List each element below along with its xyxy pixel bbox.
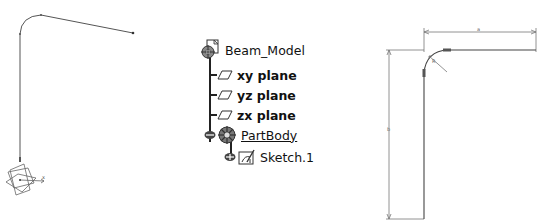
collapse-toggle-icon[interactable]	[204, 130, 216, 140]
plane-icon	[217, 90, 233, 100]
tree-item-label: zx plane	[237, 108, 296, 123]
sketch-icon	[238, 149, 256, 165]
2d-sketch-view[interactable]: a b R	[370, 0, 546, 223]
tree-item-sketch-1[interactable]: Sketch.1	[224, 147, 314, 167]
3d-view[interactable]: x	[0, 0, 182, 223]
svg-text:R: R	[432, 58, 436, 64]
tree-item-zx-plane[interactable]: zx plane	[217, 105, 296, 125]
svg-text:a: a	[477, 26, 480, 32]
expand-toggle-icon[interactable]	[224, 152, 236, 162]
tree-item-partbody[interactable]: PartBody	[204, 125, 297, 145]
plane-icon	[217, 110, 233, 120]
tree-item-label: Beam_Model	[225, 43, 305, 58]
dimension-vertical	[386, 50, 424, 219]
tree-item-label: xy plane	[237, 68, 297, 83]
sketch-profile	[424, 50, 536, 219]
tree-item-label: yz plane	[237, 88, 296, 103]
svg-text:b: b	[387, 126, 390, 132]
tree-item-label: PartBody	[241, 128, 297, 143]
part-document-icon	[199, 39, 221, 61]
tree-connector	[209, 94, 217, 96]
tree-item-yz-plane[interactable]: yz plane	[217, 85, 296, 105]
svg-text:x: x	[42, 174, 45, 180]
axis-system-icon	[6, 164, 44, 195]
sketch-drawing: a b R	[370, 0, 546, 223]
specification-tree: Beam_Model xy plane yz plane zx plane	[195, 30, 355, 180]
plane-icon	[217, 70, 233, 80]
tree-item-beam-model[interactable]: Beam_Model	[199, 40, 305, 60]
tree-connector	[209, 114, 217, 116]
tree-item-xy-plane[interactable]: xy plane	[217, 65, 297, 85]
tree-item-label: Sketch.1	[260, 150, 314, 165]
body-gear-icon	[217, 125, 237, 145]
tree-connector	[209, 74, 217, 76]
3d-sketch-path: x	[0, 0, 182, 223]
